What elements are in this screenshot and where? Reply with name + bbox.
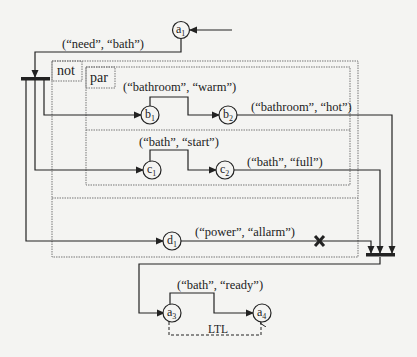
edge-power-allarm [181, 241, 371, 253]
not-operator-label: not [57, 64, 75, 78]
join-bar [366, 253, 395, 257]
fork-bar [21, 77, 50, 81]
node-a3: a3 [163, 304, 181, 322]
edge-label-ltl: LTL [208, 324, 228, 336]
edge-label-power-allarm: (“power”, “allarm”) [195, 226, 295, 239]
edge-label-need-bath: (“need”, “bath”) [62, 38, 144, 51]
edge-label-bath-ready: (“bath”, “ready”) [177, 279, 263, 292]
node-c2: c2 [216, 161, 234, 179]
edge-fork-to-d1 [26, 80, 163, 241]
node-c1: c1 [143, 161, 161, 179]
node-b1: b1 [141, 106, 159, 124]
edge-label-bath-full: (“bath”, “full”) [247, 156, 323, 169]
edge-label-bathroom-warm: (“bathroom”, “warm”) [123, 81, 236, 94]
edge-label-bathroom-hot: (“bathroom”, “hot”) [251, 101, 352, 114]
diagram-canvas: a1 b1 b2 c1 c2 d1 a3 a4 [0, 0, 417, 357]
edge-label-bath-start: (“bath”, “start”) [139, 136, 219, 149]
node-b2: b2 [219, 106, 237, 124]
node-a1: a1 [173, 22, 190, 39]
node-d1: d1 [163, 232, 181, 250]
node-a4: a4 [253, 304, 271, 322]
edge-bath-ready [170, 293, 253, 313]
edge-bathroom-warm [150, 97, 219, 115]
par-operator-label: par [90, 71, 108, 85]
